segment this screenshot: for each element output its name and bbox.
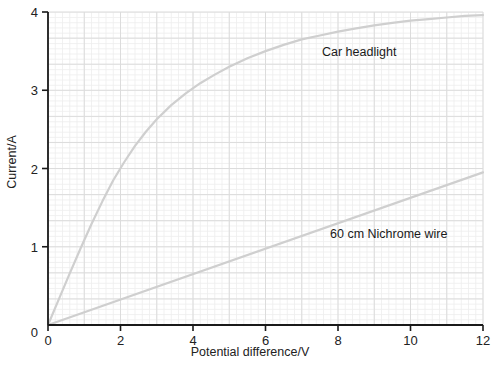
- y-tick-label: 1: [14, 239, 38, 254]
- x-axis-label: Potential difference/V: [0, 345, 500, 359]
- plot-canvas: [0, 0, 500, 368]
- chart-container: 02468101201234 Potential difference/V Cu…: [0, 0, 500, 368]
- y-axis-label: Current/A: [5, 122, 19, 202]
- y-tick-label: 0: [14, 325, 38, 340]
- y-tick-label: 3: [14, 83, 38, 98]
- y-tick-label: 4: [14, 5, 38, 20]
- series-label-nichrome-wire: 60 cm Nichrome wire: [330, 227, 447, 241]
- series-label-car-headlight: Car headlight: [322, 45, 396, 59]
